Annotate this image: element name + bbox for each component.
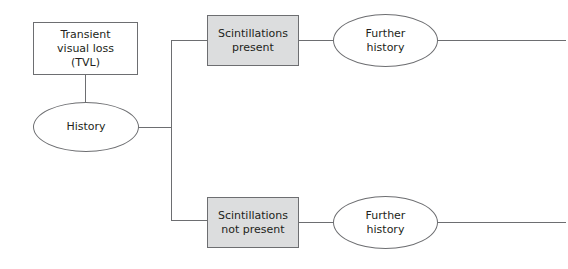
node-label: Further history xyxy=(366,27,406,55)
node-label: Transient visual loss (TVL) xyxy=(57,28,114,70)
connector-branch-vertical xyxy=(171,40,172,221)
node-scintillations-present: Scintillations present xyxy=(207,15,299,66)
connector-further-1-out xyxy=(437,40,566,41)
node-scintillations-not-present: Scintillations not present xyxy=(207,197,299,248)
connector-further-2-out xyxy=(437,222,566,223)
node-label: History xyxy=(66,120,105,134)
connector-branch-bottom xyxy=(171,220,207,221)
connector-tvl-history xyxy=(85,74,86,103)
connector-history-branch xyxy=(138,127,172,128)
node-further-history-2: Further history xyxy=(333,196,438,249)
node-further-history-1: Further history xyxy=(333,14,438,67)
node-transient-visual-loss: Transient visual loss (TVL) xyxy=(33,22,138,75)
connector-branch-top xyxy=(171,40,207,41)
node-label: Further history xyxy=(366,209,406,237)
connector-scint-not-present-further xyxy=(298,222,333,223)
node-history: History xyxy=(33,102,139,152)
node-label: Scintillations not present xyxy=(218,209,288,237)
connector-scint-present-further xyxy=(298,40,333,41)
node-label: Scintillations present xyxy=(218,27,288,55)
